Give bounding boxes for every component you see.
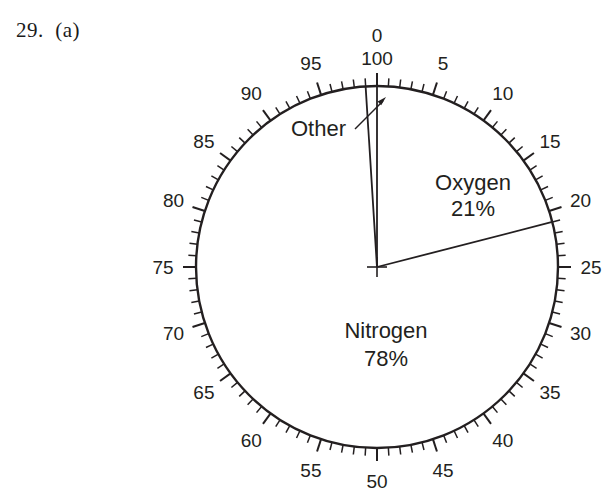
major-tick: [220, 153, 231, 161]
major-tick: [317, 439, 321, 451]
major-tick: [193, 323, 205, 327]
oxygen-slice-label: Oxygen: [435, 170, 511, 195]
major-tick: [483, 413, 491, 424]
major-tick: [220, 373, 231, 381]
major-tick: [549, 207, 561, 211]
scale-label-10: 10: [492, 83, 513, 104]
minor-tick: [444, 91, 447, 98]
scale-label-5: 5: [438, 53, 449, 74]
scale-label-40: 40: [492, 430, 513, 451]
scale-label-60: 60: [241, 430, 262, 451]
scale-label-15: 15: [540, 131, 561, 152]
major-tick: [523, 373, 534, 381]
scale-label-65: 65: [193, 382, 214, 403]
major-tick: [433, 439, 437, 451]
major-tick: [263, 413, 271, 424]
major-tick: [433, 83, 437, 95]
nitrogen-slice-label: Nitrogen: [344, 318, 427, 343]
scale-label-85: 85: [193, 131, 214, 152]
minor-tick: [444, 435, 447, 442]
scale-label-35: 35: [540, 382, 561, 403]
scale-label-95: 95: [300, 53, 321, 74]
scale-label-50: 50: [366, 471, 387, 492]
major-tick: [523, 153, 534, 161]
minor-tick: [545, 334, 552, 337]
scale-label-zero: 0: [372, 25, 383, 46]
major-tick: [549, 323, 561, 327]
major-tick: [317, 83, 321, 95]
minor-tick: [307, 435, 310, 442]
scale-label-75: 75: [152, 257, 173, 278]
scale-label-20: 20: [570, 190, 591, 211]
minor-tick: [201, 197, 208, 200]
scale-label-25: 25: [580, 257, 601, 278]
nitrogen-slice-value: 78%: [364, 346, 408, 371]
scale-label-45: 45: [433, 460, 454, 481]
figure-canvas: 29. (a) 51015202530354045505560657075808…: [0, 0, 613, 504]
scale-label-80: 80: [163, 190, 184, 211]
scale-label-hundred: 100: [361, 48, 393, 69]
minor-tick: [307, 91, 310, 98]
major-tick: [263, 110, 271, 121]
oxygen-slice-value: 21%: [451, 196, 495, 221]
minor-tick: [545, 197, 552, 200]
major-tick: [193, 207, 205, 211]
minor-tick: [201, 334, 208, 337]
pie-chart-figure: 5101520253035404550556065707580859095 Ot…: [0, 0, 613, 504]
other-slice-label: Other: [291, 116, 346, 141]
major-tick: [483, 110, 491, 121]
scale-label-30: 30: [570, 323, 591, 344]
scale-label-55: 55: [300, 460, 321, 481]
scale-label-90: 90: [241, 83, 262, 104]
scale-label-70: 70: [163, 323, 184, 344]
